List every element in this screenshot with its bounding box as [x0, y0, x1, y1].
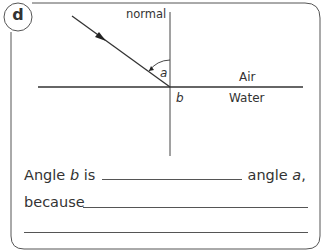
diagram-frame [0, 0, 323, 252]
answer-blank-3[interactable] [24, 232, 308, 233]
angle-a-label: a [160, 66, 167, 80]
normal-label: normal [126, 7, 166, 21]
answer-blank-2[interactable] [83, 207, 308, 208]
air-label: Air [239, 70, 255, 84]
water-label: Water [229, 91, 264, 105]
sentence-1: Angle b is angle a, [24, 167, 306, 183]
answer-blank-1[interactable] [102, 178, 242, 180]
sentence-2: because [24, 194, 85, 210]
question-label: d [6, 5, 30, 24]
angle-b-label: b [176, 91, 184, 105]
